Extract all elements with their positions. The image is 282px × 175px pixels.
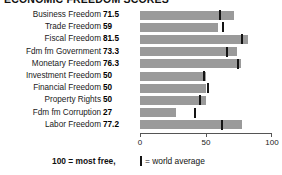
bar-track [140,35,272,44]
bar-track [140,11,272,20]
bar-value-label: 71.5 [103,9,130,21]
table-row: Fdm fm Corruption27 [0,107,282,119]
bar-value-label: 59 [103,21,130,33]
x-axis-tick-label: 50 [202,138,211,147]
bar-track [140,96,272,105]
bar-value-label: 50 [103,70,130,82]
legend-most-free-label: 100 = most free, [52,154,116,168]
table-row: Monetary Freedom76.3 [0,58,282,70]
world-average-marker [237,59,239,69]
bar-value-label: 76.3 [103,58,130,70]
world-average-marker [199,95,201,105]
bar-fill [140,23,218,32]
world-average-marker [203,71,205,81]
x-axis-tick [140,133,141,137]
world-average-marker [241,34,243,44]
bar-track [140,23,272,32]
x-axis-tick [206,133,207,137]
economic-freedom-bar-chart: Business Freedom71.5Trade Freedom59Fisca… [0,0,282,175]
bar-fill [140,120,242,129]
bar-fill [140,59,241,68]
table-row: Fiscal Freedom81.5 [0,33,282,45]
table-row: Business Freedom71.5 [0,9,282,21]
bar-fill [140,108,176,117]
bar-fill [140,47,237,56]
world-average-marker-icon [140,156,142,166]
bar-value-label: 27 [103,107,130,119]
bar-track [140,120,272,129]
bar-fill [140,96,206,105]
x-axis-tick-label: 100 [265,138,278,147]
x-axis-tick-label: 0 [138,138,142,147]
bar-category-label: Trade Freedom [0,21,101,33]
bar-value-label: 50 [103,94,130,106]
bar-value-label: 77.2 [103,119,130,131]
bar-track [140,47,272,56]
bar-category-label: Monetary Freedom [0,58,101,70]
x-axis: 050100 [140,133,272,153]
world-average-marker [226,47,228,57]
bar-category-label: Fdm fm Corruption [0,107,101,119]
bar-category-label: Financial Freedom [0,82,101,94]
bar-value-label: 73.3 [103,46,130,58]
bar-track [140,108,272,117]
table-row: Property Rights50 [0,94,282,106]
world-average-marker [219,10,221,20]
chart-legend: 100 = most free, = world average [52,154,262,168]
bar-track [140,84,272,93]
bar-category-label: Labor Freedom [0,119,101,131]
table-row: Fdm fm Government73.3 [0,46,282,58]
world-average-marker [207,83,209,93]
world-average-marker [222,22,224,32]
bar-track [140,72,272,81]
world-average-marker [194,108,196,118]
table-row: Trade Freedom59 [0,21,282,33]
bar-track [140,59,272,68]
bar-category-label: Business Freedom [0,9,101,21]
bar-fill [140,35,248,44]
legend-world-average-label: = world average [145,154,205,168]
world-average-marker [221,120,223,130]
table-row: Investment Freedom50 [0,70,282,82]
bar-category-label: Fiscal Freedom [0,33,101,45]
bar-category-label: Fdm fm Government [0,46,101,58]
table-row: Financial Freedom50 [0,82,282,94]
bar-category-label: Investment Freedom [0,70,101,82]
bar-category-label: Property Rights [0,94,101,106]
bar-fill [140,84,206,93]
table-row: Labor Freedom77.2 [0,119,282,131]
bar-value-label: 81.5 [103,33,130,45]
bar-value-label: 50 [103,82,130,94]
x-axis-tick [271,133,272,137]
bar-fill [140,72,206,81]
